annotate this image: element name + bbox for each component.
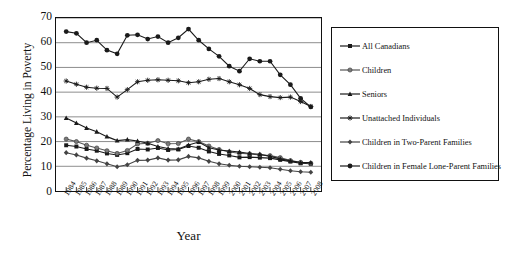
data-point-marker: [105, 48, 110, 53]
data-point-marker: [308, 105, 313, 110]
data-point-marker: [186, 27, 191, 32]
data-point-marker: [176, 141, 180, 145]
data-point-marker: [64, 29, 69, 34]
poverty-line-chart: Percentage Living in Poverty 01020304050…: [0, 0, 506, 258]
data-point-marker: [268, 59, 273, 64]
data-point-marker: [257, 59, 262, 64]
y-tick-label: 50: [30, 61, 52, 73]
data-point-marker: [186, 154, 191, 159]
legend-item[interactable]: Unattached Individuals: [332, 106, 498, 130]
data-point-marker: [278, 72, 283, 77]
data-point-marker: [348, 68, 352, 72]
y-tick-label: 20: [30, 136, 52, 148]
data-point-marker: [347, 115, 352, 120]
data-point-marker: [166, 40, 171, 45]
data-point-marker: [74, 152, 79, 157]
data-point-marker: [135, 158, 140, 163]
data-point-marker: [257, 165, 262, 170]
data-point-marker: [196, 79, 201, 84]
data-point-marker: [105, 161, 110, 166]
chart-legend: All CanadiansChildrenSeniorsUnattached I…: [331, 27, 499, 181]
data-point-marker: [207, 149, 211, 153]
data-point-marker: [115, 51, 120, 56]
legend-item[interactable]: Seniors: [332, 82, 498, 106]
data-point-marker: [247, 56, 252, 61]
data-point-marker: [166, 158, 171, 163]
data-point-marker: [84, 85, 89, 90]
data-point-marker: [156, 34, 161, 39]
legend-item-label: Seniors: [362, 90, 387, 99]
data-point-marker: [348, 164, 353, 169]
legend-item-label: Unattached Individuals: [362, 114, 440, 123]
legend-item[interactable]: All Canadians: [332, 34, 498, 58]
data-point-marker: [115, 151, 119, 155]
data-point-marker: [74, 82, 79, 87]
data-point-marker: [197, 146, 201, 150]
data-point-marker: [115, 164, 120, 169]
data-point-marker: [95, 146, 99, 150]
data-point-marker: [176, 157, 181, 162]
data-point-marker: [216, 76, 221, 81]
data-point-marker: [217, 161, 222, 166]
legend-item-label: Children in Two-Parent Families: [362, 138, 472, 147]
data-point-marker: [135, 32, 140, 37]
data-point-marker: [237, 164, 242, 169]
data-point-marker: [176, 35, 181, 40]
circle-grey-marker-icon: [339, 64, 361, 76]
legend-item[interactable]: Children in Two-Parent Families: [332, 130, 498, 154]
plot-svg: [56, 18, 321, 191]
data-point-marker: [288, 95, 293, 100]
data-point-marker: [125, 148, 129, 152]
data-point-marker: [74, 139, 78, 143]
data-point-marker: [196, 38, 201, 43]
data-point-marker: [105, 149, 109, 153]
data-point-marker: [94, 158, 99, 163]
data-point-marker: [125, 33, 130, 38]
data-point-marker: [145, 78, 150, 83]
data-point-marker: [146, 148, 150, 152]
data-point-marker: [135, 79, 140, 84]
data-point-marker: [227, 163, 232, 168]
data-point-marker: [145, 37, 150, 42]
legend-item[interactable]: Children: [332, 58, 498, 82]
data-point-marker: [247, 164, 252, 169]
data-point-marker: [94, 86, 99, 91]
legend-item[interactable]: Children in Female Lone-Parent Families: [332, 154, 498, 178]
data-point-marker: [227, 79, 232, 84]
data-point-marker: [308, 170, 313, 175]
y-axis-tick-labels: 010203040506070: [25, 0, 52, 258]
data-point-marker: [64, 78, 69, 83]
plot-area: [55, 17, 322, 192]
y-tick-label: 60: [30, 36, 52, 48]
square-marker-icon: [339, 40, 361, 52]
data-point-marker: [166, 142, 170, 146]
data-point-marker: [64, 116, 69, 121]
data-point-marker: [186, 80, 191, 85]
data-point-marker: [64, 143, 68, 147]
data-point-marker: [288, 82, 293, 87]
data-point-marker: [278, 167, 283, 172]
data-point-marker: [74, 145, 78, 149]
data-point-marker: [94, 38, 99, 43]
data-point-marker: [196, 155, 201, 160]
y-tick-label: 10: [30, 161, 52, 173]
y-tick-label: 30: [30, 111, 52, 123]
legend-item-label: All Canadians: [362, 42, 410, 51]
data-point-marker: [64, 137, 68, 141]
diamond-marker-icon: [339, 136, 361, 148]
data-point-marker: [156, 155, 161, 160]
y-tick-label: 0: [30, 186, 52, 198]
data-point-marker: [136, 147, 140, 151]
data-point-marker: [156, 139, 160, 143]
data-point-marker: [267, 94, 272, 99]
data-point-marker: [278, 95, 283, 100]
data-point-marker: [84, 143, 88, 147]
data-point-marker: [298, 169, 303, 174]
data-point-marker: [247, 86, 252, 91]
data-point-marker: [207, 47, 212, 52]
data-point-marker: [217, 152, 221, 156]
circle-filled-marker-icon: [339, 160, 361, 172]
triangle-marker-icon: [339, 88, 361, 100]
data-point-marker: [257, 92, 262, 97]
data-point-marker: [237, 82, 242, 87]
